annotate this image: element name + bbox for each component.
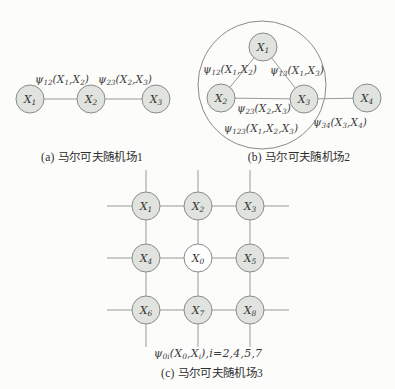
caption-c: (c) 马尔可夫随机场3: [161, 364, 263, 380]
node-c-x4-label: X4: [140, 252, 153, 265]
node-c-x3-label: X3: [244, 200, 257, 213]
edge-label-b-psi23: ψ23(X2,X3): [237, 102, 291, 114]
node-c-x8-label: X8: [244, 304, 257, 317]
node-b-x1-label: X1: [257, 41, 270, 54]
potential-label-c-psi0i: ψ0i(X0,Xi),i=2,4,5,7: [154, 347, 263, 360]
node-c-x5-label: X5: [244, 252, 257, 265]
caption-a: (a) 马尔可夫随机场1: [41, 148, 143, 164]
clique-label-b-psi123: ψ123(X1,X2,X3): [224, 122, 298, 134]
node-c-x0-label: X0: [192, 252, 205, 265]
edge-label-a-psi23: ψ23(X2,X3): [98, 73, 152, 85]
node-b-x3-label: X3: [298, 93, 311, 106]
mrf-figure: X1 X2 X3 ψ12(X1,X2) ψ23(X2,X3) (a) 马尔可夫随…: [0, 0, 395, 389]
node-a-x1-label: X1: [24, 93, 37, 106]
node-c-x2-label: X2: [192, 200, 205, 213]
node-c-x1-label: X1: [140, 200, 153, 213]
caption-b: (b) 马尔可夫随机场2: [248, 148, 351, 164]
node-a-x2-label: X2: [85, 93, 98, 106]
edge-label-b-psi13: ψ13(X1,X3): [270, 64, 324, 76]
edge-label-b-psi34: ψ34(X3,X4): [313, 116, 367, 128]
node-a-x3-label: X3: [150, 93, 163, 106]
figure-graphics: [0, 0, 395, 389]
node-b-x4-label: X4: [361, 92, 374, 105]
node-c-x7-label: X7: [192, 304, 205, 317]
node-b-x2-label: X2: [215, 92, 228, 105]
edge-label-a-psi12: ψ12(X1,X2): [35, 73, 89, 85]
node-c-x6-label: X6: [140, 304, 153, 317]
edge-label-b-psi12: ψ12(X1,X2): [203, 63, 257, 75]
